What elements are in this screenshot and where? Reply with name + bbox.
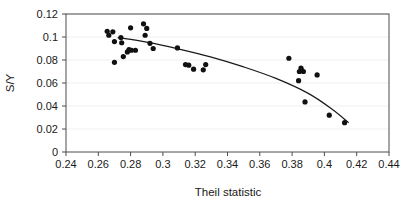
data-point bbox=[327, 113, 332, 118]
data-point bbox=[119, 40, 124, 45]
x-tick-label: 0.44 bbox=[378, 158, 399, 170]
y-tick-label: 0 bbox=[52, 146, 58, 158]
y-tick-label: 0.08 bbox=[37, 54, 58, 66]
data-point bbox=[203, 62, 208, 67]
data-point bbox=[191, 67, 196, 72]
data-point bbox=[144, 26, 149, 31]
data-point bbox=[143, 33, 148, 38]
data-point bbox=[141, 21, 146, 26]
x-axis-tick-labels: 0.240.260.280.30.320.340.360.380.40.420.… bbox=[55, 158, 399, 170]
data-point bbox=[118, 35, 123, 40]
y-axis-ticks bbox=[62, 14, 66, 152]
y-axis-title: S/Y bbox=[4, 73, 16, 92]
data-point bbox=[151, 46, 156, 51]
data-point bbox=[315, 72, 320, 77]
data-point bbox=[133, 48, 138, 53]
data-point bbox=[128, 25, 133, 30]
y-tick-label: 0.12 bbox=[37, 8, 58, 20]
data-point bbox=[175, 45, 180, 50]
x-tick-label: 0.34 bbox=[217, 158, 238, 170]
x-tick-label: 0.26 bbox=[88, 158, 109, 170]
x-tick-label: 0.38 bbox=[281, 158, 302, 170]
x-axis-ticks bbox=[66, 152, 389, 156]
y-tick-label: 0.02 bbox=[37, 123, 58, 135]
y-tick-label: 0.1 bbox=[43, 31, 58, 43]
data-point bbox=[342, 120, 347, 125]
x-tick-label: 0.24 bbox=[55, 158, 76, 170]
x-axis-title: Theil statistic bbox=[195, 186, 262, 198]
data-point bbox=[286, 56, 291, 61]
data-point bbox=[302, 99, 307, 104]
y-axis-tick-labels: 00.020.040.060.080.10.12 bbox=[37, 8, 58, 158]
x-tick-label: 0.42 bbox=[346, 158, 367, 170]
data-point bbox=[147, 41, 152, 46]
data-point bbox=[110, 29, 115, 34]
data-point bbox=[301, 69, 306, 74]
x-tick-label: 0.4 bbox=[317, 158, 332, 170]
x-tick-label: 0.3 bbox=[155, 158, 170, 170]
x-tick-label: 0.32 bbox=[184, 158, 205, 170]
chart-figure: 0.240.260.280.30.320.340.360.380.40.420.… bbox=[0, 0, 420, 207]
y-tick-label: 0.06 bbox=[37, 77, 58, 89]
data-point bbox=[296, 78, 301, 83]
x-tick-label: 0.36 bbox=[249, 158, 270, 170]
data-point bbox=[201, 67, 206, 72]
scatter-plot: 0.240.260.280.30.320.340.360.380.40.420.… bbox=[0, 0, 420, 207]
data-point bbox=[121, 54, 126, 59]
data-point bbox=[106, 33, 111, 38]
x-tick-label: 0.28 bbox=[120, 158, 141, 170]
y-tick-label: 0.04 bbox=[37, 100, 58, 112]
data-point bbox=[112, 39, 117, 44]
data-point bbox=[186, 63, 191, 68]
data-point bbox=[112, 60, 117, 65]
